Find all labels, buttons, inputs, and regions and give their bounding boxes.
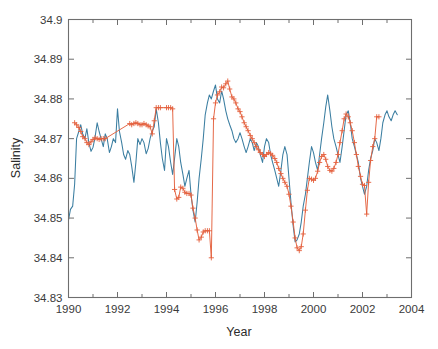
y-axis-tick-labels: 34.8334.8434.8534.8634.8734.8834.8934.9 bbox=[34, 14, 63, 304]
x-tick-label: 1990 bbox=[56, 303, 82, 315]
y-tick-label: 34.83 bbox=[34, 292, 63, 304]
x-tick-label: 2000 bbox=[301, 303, 327, 315]
y-axis-title: Salinity bbox=[9, 137, 23, 178]
x-tick-label: 2004 bbox=[399, 303, 425, 315]
x-tick-label: 1996 bbox=[203, 303, 229, 315]
chart-canvas: 19901992199419961998200020022004 34.8334… bbox=[0, 0, 438, 349]
series-observations-line bbox=[75, 81, 379, 258]
x-axis-title: Year bbox=[226, 325, 251, 339]
y-tick-label: 34.89 bbox=[34, 53, 63, 65]
y-tick-label: 34.9 bbox=[40, 14, 62, 26]
y-tick-label: 34.87 bbox=[34, 133, 63, 145]
y-tick-label: 34.84 bbox=[34, 252, 63, 264]
salinity-time-series-figure: 19901992199419961998200020022004 34.8334… bbox=[0, 0, 438, 349]
y-tick-label: 34.86 bbox=[34, 172, 63, 184]
model-polyline bbox=[69, 85, 398, 242]
axis-box bbox=[69, 20, 412, 298]
series-model-line bbox=[69, 85, 398, 242]
observations-polyline bbox=[75, 81, 379, 258]
x-axis-tick-labels: 19901992199419961998200020022004 bbox=[56, 303, 425, 315]
axis-ticks bbox=[69, 20, 412, 298]
x-tick-label: 1992 bbox=[105, 303, 131, 315]
x-tick-label: 1998 bbox=[252, 303, 278, 315]
y-tick-label: 34.88 bbox=[34, 93, 63, 105]
x-tick-label: 2002 bbox=[350, 303, 376, 315]
y-tick-label: 34.85 bbox=[34, 212, 63, 224]
plot-border bbox=[69, 20, 412, 298]
series-observations-markers bbox=[72, 78, 381, 260]
x-tick-label: 1994 bbox=[154, 303, 180, 315]
